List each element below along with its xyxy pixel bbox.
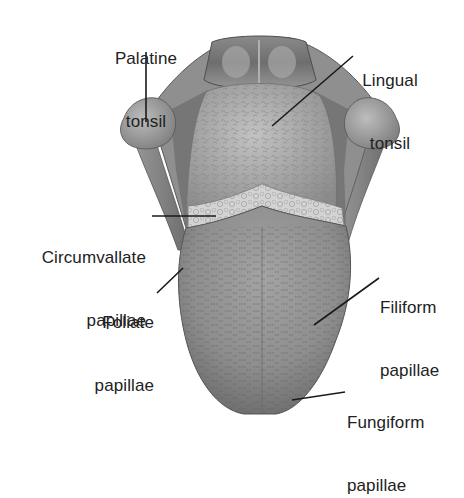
label-line: tonsil <box>104 111 188 132</box>
label-line: papillae <box>60 375 154 396</box>
label-line: Lingual <box>352 70 428 91</box>
label-line: Filiform <box>380 297 464 318</box>
label-line: Foliate <box>60 312 154 333</box>
label-foliate-papillae: Foliate papillae <box>60 270 154 417</box>
label-line: papillae <box>347 475 447 496</box>
label-fungiform-papillae: Fungiform papillae <box>347 370 447 498</box>
label-line: tonsil <box>352 133 428 154</box>
label-line: Fungiform <box>347 412 447 433</box>
label-lingual-tonsil: Lingual tonsil <box>352 28 428 175</box>
label-palatine-tonsil: Palatine tonsil <box>104 6 188 153</box>
label-line: Circumvallate <box>4 247 146 268</box>
label-line: Palatine <box>104 48 188 69</box>
